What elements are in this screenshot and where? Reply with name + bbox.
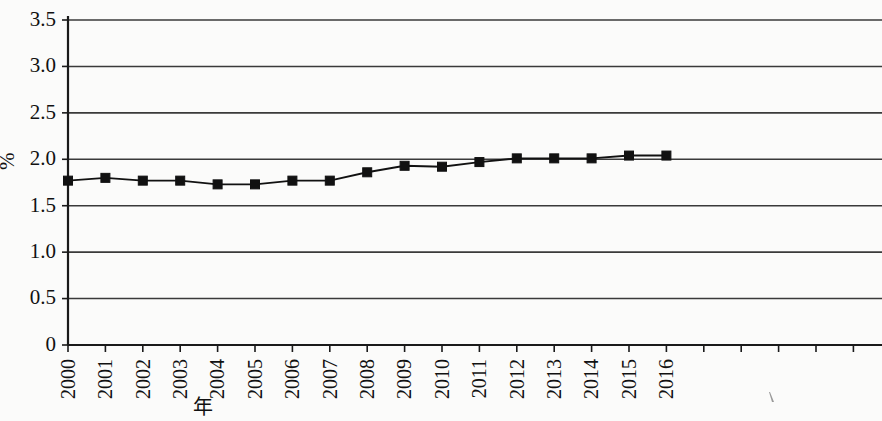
axes (68, 16, 882, 345)
line-chart: 00.51.01.52.02.53.03.5%20002001200220032… (0, 0, 882, 421)
y-tick-label: 2.0 (30, 146, 56, 170)
data-point (363, 168, 372, 177)
chart-page: 00.51.01.52.02.53.03.5%20002001200220032… (0, 0, 882, 421)
x-tick-label: 2011 (468, 359, 490, 398)
data-point (400, 161, 409, 170)
x-tick-label: 2013 (543, 359, 565, 399)
data-point (325, 176, 334, 185)
data-point (662, 151, 671, 160)
data-point (138, 176, 147, 185)
x-axis-ticks: 2000200120022003200420052006200720082009… (57, 345, 854, 399)
x-tick-label: 2006 (281, 359, 303, 399)
y-tick-label: 3.0 (30, 53, 56, 77)
x-tick-label: 2003 (169, 359, 191, 399)
x-tick-label: 2002 (132, 359, 154, 399)
y-axis-ticks: 00.51.01.52.02.53.03.5 (30, 7, 68, 356)
data-point (251, 180, 260, 189)
x-tick-label: 2016 (655, 359, 677, 399)
x-tick-label: 2005 (244, 359, 266, 399)
data-point (587, 154, 596, 163)
data-point (288, 176, 297, 185)
data-point (64, 176, 73, 185)
scan-artifact (769, 392, 774, 402)
x-tick-label: 2012 (506, 359, 528, 399)
x-axis-title: 年 (193, 396, 213, 418)
data-point (512, 154, 521, 163)
x-tick-label: 2007 (319, 359, 341, 399)
y-tick-label: 1.0 (30, 239, 56, 263)
data-series (64, 151, 671, 189)
x-tick-label: 2010 (431, 359, 453, 399)
data-point (625, 151, 634, 160)
data-point (550, 154, 559, 163)
x-tick-label: 2015 (618, 359, 640, 399)
x-tick-label: 2000 (57, 359, 79, 399)
data-point (101, 173, 110, 182)
data-point (438, 162, 447, 171)
x-tick-label: 2009 (393, 359, 415, 399)
data-point (475, 158, 484, 167)
y-tick-label: 2.5 (30, 100, 56, 124)
y-axis-title: % (0, 153, 19, 171)
y-tick-label: 0 (46, 332, 57, 356)
x-tick-label: 2004 (206, 359, 228, 399)
y-tick-label: 3.5 (30, 7, 56, 31)
data-point (176, 176, 185, 185)
y-tick-label: 0.5 (30, 285, 56, 309)
data-point (213, 180, 222, 189)
x-tick-label: 2008 (356, 359, 378, 399)
x-tick-label: 2001 (94, 359, 116, 399)
x-tick-label: 2014 (580, 359, 602, 399)
y-tick-label: 1.5 (30, 193, 56, 217)
